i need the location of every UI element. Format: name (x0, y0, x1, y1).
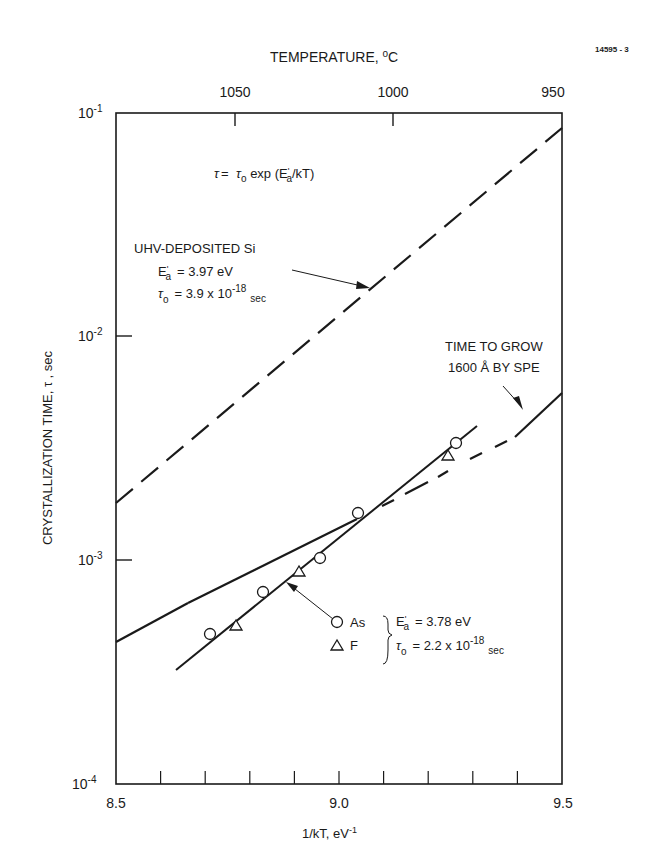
chart-canvas: 14595 - 3 TEMPERATURE, oC 1050 1000 950 … (0, 0, 652, 867)
y-tick-1e-4: 10-4 (72, 774, 97, 792)
y-tick-1e-2: 10-2 (78, 326, 103, 344)
y-tick-1e-1: 10-1 (78, 103, 103, 121)
y-ticks (116, 336, 132, 560)
spe-label-line1: TIME TO GROW (445, 339, 543, 354)
series-spe-line (116, 393, 562, 642)
top-tick-1000: 1000 (377, 84, 408, 100)
top-tick-950: 950 (541, 84, 565, 100)
spe-arrowhead-icon (513, 396, 523, 410)
top-axis-title: TEMPERATURE, oC (270, 48, 398, 65)
uhv-arrowhead-icon (356, 281, 370, 289)
figure-id: 14595 - 3 (595, 45, 629, 54)
x-ticks (161, 771, 518, 784)
plot-frame (116, 113, 562, 784)
uhv-ea: E'a= 3.97 eV (158, 264, 233, 282)
fit-arrow (290, 585, 333, 619)
legend-ea: E'a= 3.78 eV (396, 614, 471, 632)
top-tick-1050: 1050 (219, 84, 250, 100)
legend-brace (383, 616, 392, 664)
legend-f-label: F (350, 638, 358, 653)
legend-tau0: τo= 2.2 x 10-18sec (396, 635, 504, 657)
legend-as-label: As (350, 615, 366, 630)
x-tick-8.5: 8.5 (106, 795, 126, 811)
y-tick-1e-3: 10-3 (78, 550, 103, 568)
x-axis-label: 1/kT, eV-1 (302, 825, 357, 841)
legend-as-icon (332, 617, 343, 628)
spe-label-line2: 1600 Å BY SPE (448, 360, 540, 375)
series-fit-line (176, 426, 477, 670)
series-as-markers (205, 438, 462, 640)
series-f-markers (230, 450, 454, 630)
uhv-title: UHV-DEPOSITED Si (134, 241, 255, 256)
y-axis-label: CRYSTALLIZATION TIME, τ , sec (40, 350, 55, 545)
top-ticks (235, 113, 393, 126)
x-tick-9.0: 9.0 (329, 795, 349, 811)
uhv-tau0: τo= 3.9 x 10-18sec (158, 283, 266, 305)
uhv-arrow (292, 270, 366, 287)
x-tick-9.5: 9.5 (553, 795, 573, 811)
legend-f-icon (331, 640, 343, 650)
equation-label: τ= τo exp (E'a/kT) (214, 166, 314, 184)
